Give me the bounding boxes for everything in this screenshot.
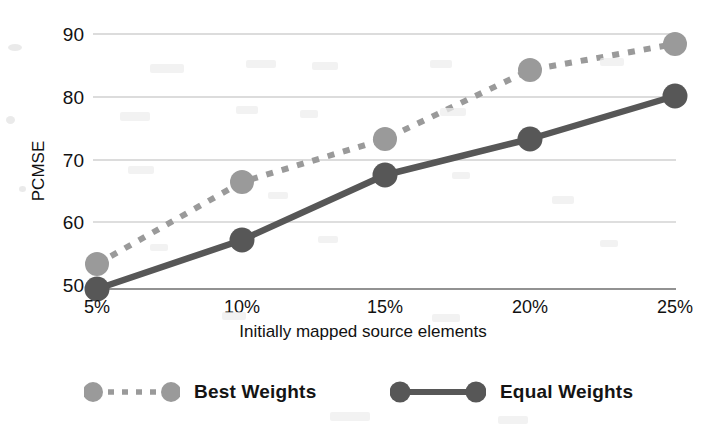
- x-tick-label-5: 5%: [57, 298, 137, 316]
- chart-canvas: [0, 0, 726, 429]
- series-best-weights: [85, 32, 687, 276]
- y-tick-label-90: 90: [38, 25, 84, 44]
- x-tick-label-20: 20%: [490, 298, 570, 316]
- y-tick-label-50: 50: [38, 276, 84, 295]
- legend-swatch-dotted: [84, 379, 180, 405]
- legend-item-equal-weights: Equal Weights: [390, 372, 633, 412]
- y-axis-title: PCMSE: [29, 116, 49, 226]
- series-equal-weights: [85, 84, 688, 302]
- y-tick-label-80: 80: [38, 88, 84, 107]
- plot-area: 90 80 70 60 50 5% 10% 15% 20% 25% Initia…: [0, 0, 726, 429]
- legend-swatch-solid: [390, 379, 486, 405]
- legend-label-best-weights: Best Weights: [194, 381, 316, 403]
- chart-legend: Best Weights Equal Weights: [0, 372, 726, 416]
- legend-label-equal-weights: Equal Weights: [500, 381, 633, 403]
- x-axis-title: Initially mapped source elements: [0, 322, 726, 342]
- x-tick-label-15: 15%: [345, 298, 425, 316]
- chart-figure: 90 80 70 60 50 5% 10% 15% 20% 25% Initia…: [0, 0, 726, 429]
- x-tick-label-25: 25%: [635, 298, 715, 316]
- legend-item-best-weights: Best Weights: [84, 372, 316, 412]
- x-tick-label-10: 10%: [202, 298, 282, 316]
